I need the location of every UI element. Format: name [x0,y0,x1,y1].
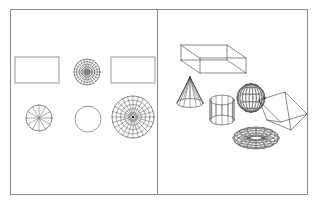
figure-canvas [0,0,317,205]
wireframe-torus [233,127,279,149]
rectangle-top-right [111,57,155,83]
spoked-wheel-bottom-left-spoke-4 [33,119,39,129]
rectangle-top-left [15,57,59,83]
spoked-wheel-bottom-left-spoke-1 [40,119,50,125]
large-polar-grid-bottom-right-spoke-3 [135,119,148,132]
spoked-wheel-bottom-left-spoke-8 [33,107,39,117]
wireframe-sphere-parallel-3 [237,94,265,102]
spoked-wheel-bottom-left-spoke-11 [40,112,50,118]
left-panel [15,57,155,138]
large-polar-grid-bottom-right-spoke-21 [135,102,148,115]
wireframe-sphere-parallel-2 [239,87,263,94]
dense-polar-grid-top-hub [86,71,87,72]
figure-root [0,0,317,205]
large-polar-grid-bottom-right-hub [132,116,134,118]
large-polar-grid-bottom-right-spoke-15 [118,102,131,115]
wireframe-cone-gen-2 [190,77,197,107]
spoked-wheel-bottom-left-spoke-10 [40,107,46,117]
spoked-wheel-bottom-left-hub [38,117,39,118]
wireframe-wedge [259,92,307,130]
wireframe-box-bottom [181,60,246,73]
dense-polar-grid-top [74,59,100,85]
wireframe-cone-gen-1 [190,77,201,105]
spoked-wheel-bottom-left-spoke-2 [40,119,46,129]
wireframe-box-top [181,45,246,58]
large-polar-grid-bottom-right-spoke-9 [118,119,131,132]
spoked-wheel-bottom-left-spoke-7 [28,112,38,118]
large-polar-grid-bottom-right [112,96,154,138]
wireframe-cone-gen-4 [184,77,191,107]
wireframe-cone-gen-5 [179,77,190,105]
spoked-wheel-bottom-left-spoke-5 [28,119,38,125]
wireframe-sphere [237,84,265,112]
spoked-wheel-bottom-left [26,105,52,131]
wireframe-cylinder [210,95,234,125]
outer-frame [11,10,308,195]
plain-circle-bottom-center [75,106,101,132]
wireframe-sphere-parallel-4 [239,101,263,108]
wireframe-cone [177,77,203,107]
right-panel [177,45,307,149]
wireframe-wedge-fold-c [285,92,291,130]
wireframe-box [181,45,246,73]
